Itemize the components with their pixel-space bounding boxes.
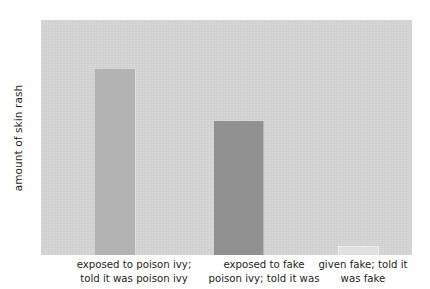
bar-chart-figure: amount of skin rash exposed to poison iv…	[0, 0, 430, 289]
plot-area	[41, 20, 412, 255]
y-axis-title-text: amount of skin rash	[12, 84, 24, 191]
x-axis-category-labels: exposed to poison ivy; told it was poiso…	[41, 258, 412, 289]
category-label-line: given fake; told it	[283, 258, 430, 272]
bar-fake-told-poison-ivy	[214, 121, 264, 255]
y-axis-title: amount of skin rash	[0, 20, 36, 255]
category-label-fake-told-fake: given fake; told it was fake	[283, 258, 430, 285]
bar-poison-ivy-told-poison-ivy	[95, 69, 136, 255]
bar-fake-told-fake	[338, 246, 379, 255]
category-label-line: was fake	[283, 272, 430, 286]
